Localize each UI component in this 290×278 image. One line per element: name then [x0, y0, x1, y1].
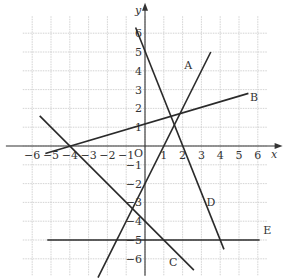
y-tick-label: 3: [135, 84, 142, 97]
x-tick-label: −6: [24, 149, 40, 162]
axes: [6, 3, 283, 276]
y-tick-label: −1: [126, 159, 142, 172]
x-tick-label: 5: [236, 149, 243, 162]
y-axis-label: y: [134, 4, 142, 17]
y-tick-label: 1: [135, 121, 142, 134]
x-tick-label: 3: [198, 149, 205, 162]
line-d: [136, 28, 224, 250]
line-label-d: D: [206, 196, 215, 209]
line-label-e: E: [263, 224, 271, 237]
x-tick-label: −2: [99, 149, 115, 162]
y-axis-arrow-icon: [142, 3, 148, 11]
y-tick-label: 4: [135, 65, 142, 78]
y-tick-label: −6: [126, 253, 142, 266]
line-label-c: C: [169, 256, 177, 269]
y-tick-label: 2: [135, 102, 142, 115]
origin-label: O: [134, 147, 143, 160]
y-tick-label: 5: [135, 46, 142, 59]
x-axis-label: x: [271, 148, 278, 161]
x-tick-label: 6: [254, 149, 261, 162]
y-tick-label: −2: [126, 178, 142, 191]
line-c: [40, 116, 194, 270]
line-b: [45, 93, 248, 153]
line-label-a: A: [183, 59, 193, 72]
coordinate-plane: −6−5−4−3−2−1123456−6−5−4−3−2−1123456Oxy …: [0, 0, 290, 278]
x-tick-label: 4: [217, 149, 224, 162]
line-label-b: B: [250, 91, 258, 104]
